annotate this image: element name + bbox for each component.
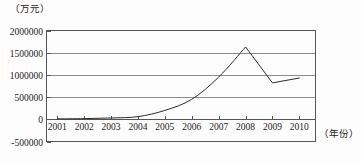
x-tick-label: 2008 [236, 122, 255, 132]
x-tick-label: 2007 [209, 122, 228, 132]
y-tick-label: 0 [38, 115, 43, 125]
x-tick-label: 2003 [102, 122, 121, 132]
x-tick-label: 2002 [75, 122, 94, 132]
chart-plot-area: 2000000150000010000005000000-500000 2001… [0, 0, 361, 162]
line-chart: （万元） 2000000150000010000005000000-500000… [0, 0, 361, 162]
x-tick-label: 2010 [290, 122, 309, 132]
x-tick-label: 2009 [263, 122, 282, 132]
y-tick-label: -500000 [11, 138, 43, 148]
y-axis-tick-labels: 2000000150000010000005000000-500000 [10, 27, 44, 148]
y-tick-label: 2000000 [10, 27, 44, 37]
gridlines [47, 54, 316, 120]
x-tick-label: 2005 [155, 122, 174, 132]
y-tick-label: 1000000 [10, 71, 44, 81]
series-line-amount [57, 47, 299, 119]
x-tick-label: 2001 [48, 122, 67, 132]
x-tick-label: 2006 [182, 122, 201, 132]
x-axis-name-label: （年份） [319, 128, 359, 140]
x-tick-label: 2004 [128, 122, 147, 132]
y-tick-label: 1500000 [10, 49, 44, 59]
x-axis-tick-labels: 2001200220032004200520062007200820092010 [48, 122, 309, 132]
y-tick-label: 500000 [15, 93, 44, 103]
data-series [57, 47, 299, 119]
